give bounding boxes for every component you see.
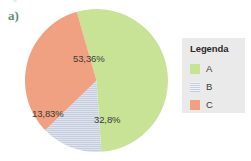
chart-legend: Legenda A B C bbox=[182, 38, 245, 113]
legend-label-b: B bbox=[206, 82, 212, 92]
legend-swatch-a-icon bbox=[190, 64, 200, 74]
legend-swatch-b-icon bbox=[190, 82, 200, 92]
figure-panel: a) 53,36% 13,83% 32,8% Legenda A B bbox=[0, 0, 251, 161]
legend-item-a: A bbox=[190, 61, 245, 77]
legend-label-a: A bbox=[206, 64, 212, 74]
figure-item-label: a) bbox=[8, 9, 19, 22]
scan-artifact bbox=[13, 0, 17, 2]
pie-slice-label-c: 32,8% bbox=[94, 115, 120, 125]
pie-chart-svg bbox=[25, 9, 168, 152]
pie-slice-label-a: 53,36% bbox=[73, 54, 105, 64]
legend-label-c: C bbox=[206, 100, 213, 110]
pie-chart: 53,36% 13,83% 32,8% bbox=[25, 9, 168, 152]
pie-slice-label-b: 13,83% bbox=[32, 109, 64, 119]
legend-item-b: B bbox=[190, 79, 245, 95]
pie-slices bbox=[25, 9, 168, 152]
legend-swatch-c-icon bbox=[190, 100, 200, 110]
legend-title: Legenda bbox=[190, 44, 245, 54]
legend-item-c: C bbox=[190, 97, 245, 113]
